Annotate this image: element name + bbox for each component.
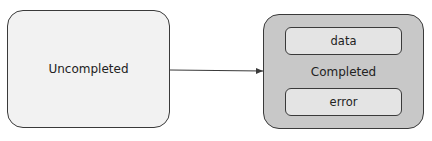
data-label: data	[331, 34, 357, 48]
error-label: error	[330, 95, 358, 109]
completed-label: Completed	[263, 63, 424, 81]
uncompleted-state-node: Uncompleted	[7, 10, 170, 128]
uncompleted-label: Uncompleted	[48, 62, 128, 76]
error-substate-node: error	[285, 88, 402, 116]
data-substate-node: data	[285, 27, 402, 55]
